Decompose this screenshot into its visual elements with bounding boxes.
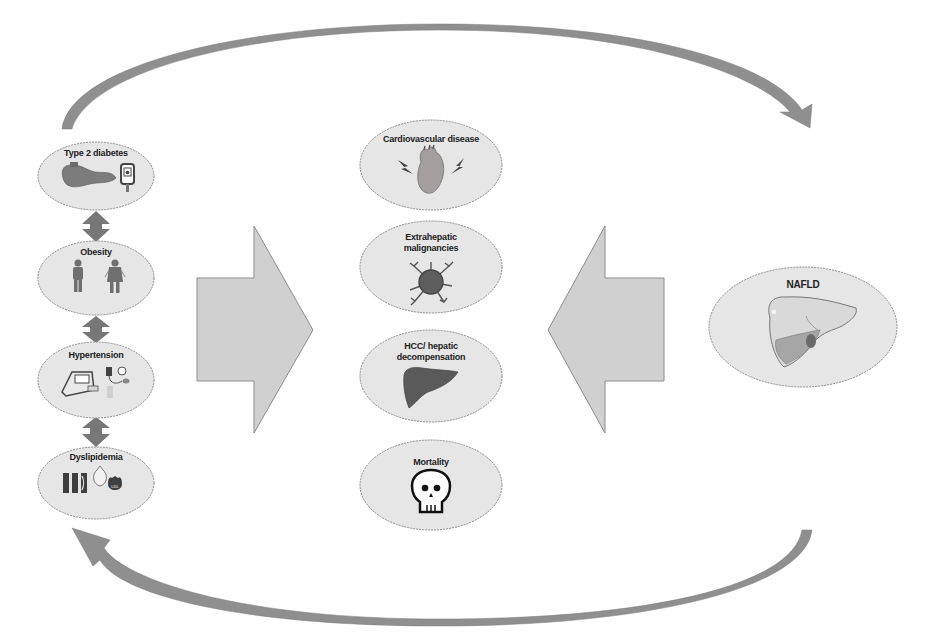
label-type2-diabetes: Type 2 diabetes <box>46 148 146 158</box>
bottom-curved-arrow <box>72 528 812 626</box>
double-arrow-2 <box>82 316 110 343</box>
right-block-arrow <box>197 226 313 433</box>
diagram-canvas: LDL <box>0 0 931 639</box>
label-dyslipidemia: Dyslipidemia <box>46 452 146 462</box>
double-arrow-3 <box>82 417 110 447</box>
lipid-vessels-icon <box>63 473 87 493</box>
label-obesity: Obesity <box>46 247 146 257</box>
label-cardiovascular-disease: Cardiovascular disease <box>371 134 491 144</box>
label-mortality: Mortality <box>371 457 491 467</box>
label-hcc-line2: decompensation <box>371 352 491 362</box>
left-block-arrow <box>548 226 664 433</box>
ldl-particle-icon: LDL <box>108 476 122 490</box>
label-hcc-line1: HCC/ hepatic <box>371 341 491 351</box>
top-curved-arrow <box>62 24 812 129</box>
label-extrahepatic-line2: malignancies <box>371 243 491 253</box>
ldl-text: LDL <box>111 484 119 489</box>
double-arrow-1 <box>82 211 110 242</box>
label-extrahepatic-line1: Extrahepatic <box>371 232 491 242</box>
label-nafld: NAFLD <box>753 280 853 290</box>
label-hypertension: Hypertension <box>46 350 146 360</box>
outcome-mortality <box>360 440 502 530</box>
